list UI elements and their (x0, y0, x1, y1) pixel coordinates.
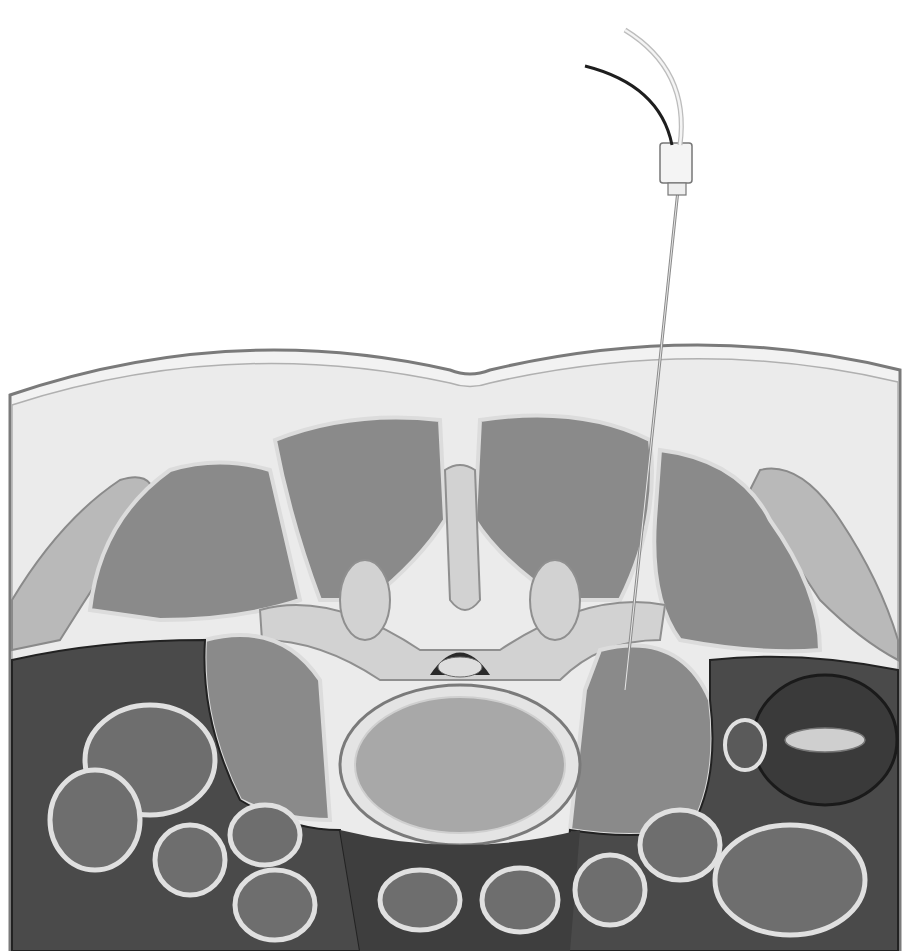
anatomy-illustration (0, 0, 912, 951)
ureter (725, 720, 765, 770)
cross-section-figure (0, 0, 912, 951)
cauda-equina (438, 657, 482, 677)
needle-hub (660, 143, 692, 183)
vertebral-body-cancellous (355, 697, 565, 833)
catheter-wire (585, 66, 672, 145)
renal-pelvis (785, 728, 865, 752)
